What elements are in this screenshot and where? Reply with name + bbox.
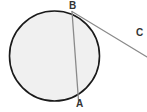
- vertex-label-c: C: [136, 28, 143, 38]
- vertex-label-a: A: [76, 99, 83, 109]
- vertex-label-b: B: [69, 1, 76, 11]
- circle-shape: [10, 11, 100, 101]
- geometry-figure: B A C: [0, 0, 147, 112]
- geometry-canvas: [0, 0, 147, 112]
